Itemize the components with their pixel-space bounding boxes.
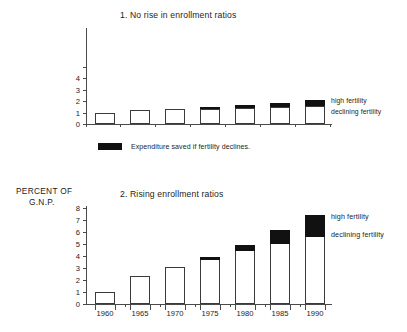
panel2-ylabel-3: 3	[68, 264, 80, 273]
panel2-xlabel-1965: 1965	[132, 309, 149, 318]
panel2-ytick-4	[83, 256, 87, 257]
panel2-xlabel-1960: 1960	[97, 309, 114, 318]
panel2-ytick-3	[83, 268, 87, 269]
panel1-xtick-3	[190, 124, 191, 127]
panel2-ylabel-6: 6	[68, 228, 80, 237]
panel2-xlabel-1970: 1970	[167, 309, 184, 318]
panel1-bar-1975	[200, 109, 220, 124]
panel1-ytick-1	[83, 113, 87, 114]
panel2-bar-1965	[130, 276, 150, 304]
panel1-ytick-2	[83, 101, 87, 102]
panel2-xtick-major-11	[290, 304, 291, 310]
panel2-ylabel-7: 7	[68, 216, 80, 225]
panel2-xtick-minor-1	[160, 304, 161, 307]
panel1-xtick-5	[260, 124, 261, 127]
panel1-cap-1975	[200, 107, 220, 109]
panel2-ylabel-2: 2	[68, 276, 80, 285]
panel-rising: PERCENT OF G.N.P. 2. Rising enrollment r…	[0, 168, 407, 332]
panel1-ytick-3	[83, 90, 87, 91]
panel2-callout-high-fertility: high fertility	[331, 212, 369, 221]
panel2-cap-1980	[235, 245, 255, 251]
panel1-bar-1980	[235, 108, 255, 124]
panel2-callout-declining-fertility: declining fertility	[331, 230, 384, 239]
panel1-xtick-4	[225, 124, 226, 127]
panel1-y-axis	[86, 28, 87, 124]
panel2-bar-1985	[270, 243, 290, 304]
panel1-xtick-2	[155, 124, 156, 127]
panel2-ylabel-8: 8	[68, 204, 80, 213]
panel-no-rise: 1. No rise in enrollment ratios 0 1 2 3 …	[0, 0, 407, 168]
panel2-bar-1970	[165, 267, 185, 304]
panel1-plot-area: 0 1 2 3 4	[0, 0, 407, 135]
panel2-xtick-major-7	[220, 304, 221, 310]
panel2-ylabel-5: 5	[68, 240, 80, 249]
panel2-xlabel-1980: 1980	[237, 309, 254, 318]
legend-label-saved: Expenditure saved if fertility declines.	[131, 143, 250, 150]
panel1-xtick-0	[86, 124, 87, 127]
panel2-ytick-7	[83, 220, 87, 221]
panel2-xtick-major-9	[255, 304, 256, 310]
panel1-cap-1990	[305, 100, 325, 106]
panel2-cap-1985	[270, 230, 290, 244]
panel2-bar-1960	[95, 292, 115, 304]
panel2-ylabel-1: 1	[68, 288, 80, 297]
panel1-callout-declining-fertility: declining fertility	[331, 108, 381, 115]
panel2-cap-1990	[305, 215, 325, 236]
panel2-ytick-1	[83, 292, 87, 293]
panel2-ylabel-0: 0	[68, 300, 80, 309]
panel2-xlabel-1975: 1975	[202, 309, 219, 318]
panel1-bar-1970	[165, 109, 185, 124]
panel1-bar-1965	[130, 110, 150, 124]
panel2-bar-1990	[305, 236, 325, 304]
panel1-cap-1985	[270, 103, 290, 108]
panel1-bar-1985	[270, 107, 290, 124]
panel2-bar-1980	[235, 250, 255, 304]
panel2-ytick-8	[83, 208, 87, 209]
panel2-xtick-major-1	[115, 304, 116, 310]
panel2-xtick-minor-3	[230, 304, 231, 307]
panel2-xtick-minor-4	[265, 304, 266, 307]
panel2-xtick-minor-5	[300, 304, 301, 307]
panel2-ytick-2	[83, 280, 87, 281]
panel1-ylabel-4: 4	[68, 74, 80, 83]
panel1-xtick-1	[120, 124, 121, 127]
panel2-xlabel-1990: 1990	[307, 309, 324, 318]
panel1-cap-1980	[235, 105, 255, 108]
panel1-legend: Expenditure saved if fertility declines.	[98, 143, 250, 150]
panel2-ytick-5	[83, 244, 87, 245]
panel2-xtick-major-13	[325, 304, 326, 310]
legend-swatch-saved	[98, 143, 122, 150]
panel1-bar-1960	[95, 113, 115, 124]
panel2-xtick-major-5	[185, 304, 186, 310]
panel1-xtick-7	[330, 124, 331, 127]
panel1-ylabel-2: 2	[68, 97, 80, 106]
panel2-ytick-6	[83, 232, 87, 233]
panel2-x-axis	[86, 304, 332, 305]
panel1-callout-high-fertility: high fertility	[331, 97, 367, 104]
panel1-ylabel-0: 0	[68, 120, 80, 129]
panel1-xtick-6	[295, 124, 296, 127]
panel2-xtick-minor-0	[125, 304, 126, 307]
panel1-bar-1990	[305, 106, 325, 124]
panel1-ylabel-3: 3	[68, 86, 80, 95]
panel2-bar-1975	[200, 259, 220, 304]
figure-canvas: 1. No rise in enrollment ratios 0 1 2 3 …	[0, 0, 407, 332]
panel2-plot-area: 0 1 2 3 4 5 6 7 8	[0, 168, 407, 332]
panel2-ytick-0	[83, 304, 87, 305]
panel2-xlabel-1985: 1985	[272, 309, 289, 318]
panel1-ytick-4	[83, 78, 87, 79]
panel1-ylabel-1: 1	[68, 109, 80, 118]
panel2-xtick-minor-2	[195, 304, 196, 307]
panel2-xtick-major-3	[150, 304, 151, 310]
panel2-cap-1975	[200, 257, 220, 260]
panel1-ytick-5	[83, 67, 87, 68]
panel2-ylabel-4: 4	[68, 252, 80, 261]
